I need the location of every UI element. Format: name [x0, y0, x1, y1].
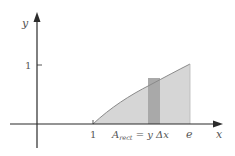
rectangle-area-label: Arect = y Δx [111, 129, 169, 142]
x-axis-arrow-icon [213, 121, 223, 128]
y-axis-arrow-icon [34, 12, 41, 22]
y-axis-label: y [21, 17, 29, 30]
x-tick-label-e: e [186, 128, 193, 141]
x-tick-label-1: 1 [90, 129, 96, 140]
y-tick-label: 1 [25, 60, 31, 71]
x-axis-label: x [216, 128, 223, 141]
shaded-region [93, 64, 190, 124]
diagram-canvas: y 1 1 e x Arect = y Δx [0, 0, 235, 156]
